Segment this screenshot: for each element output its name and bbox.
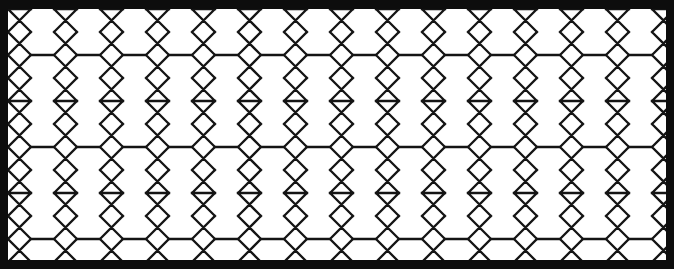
star-lattice-svg: [8, 9, 666, 260]
lattice-strapwork: [8, 9, 666, 260]
geometric-pattern-panel: [0, 0, 674, 269]
pattern-field: [8, 9, 666, 260]
